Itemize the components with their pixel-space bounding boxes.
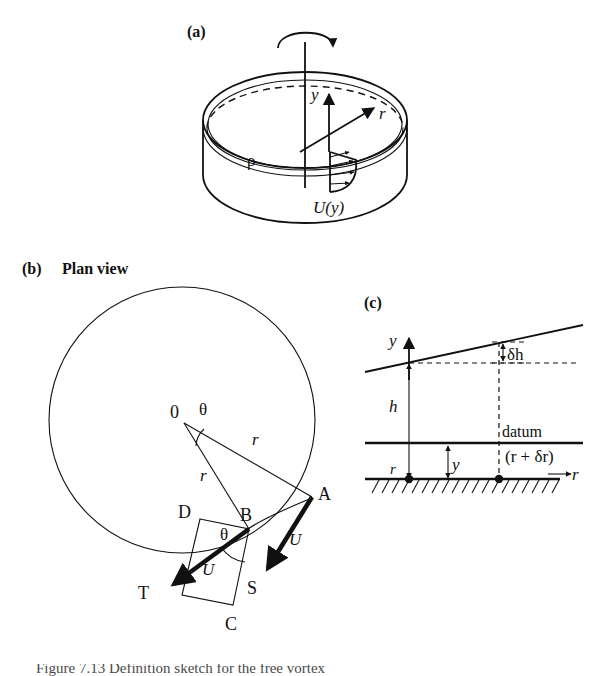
outer-station-dot — [495, 475, 503, 483]
panel-c-radius-outer-label: (r + δr) — [505, 447, 554, 466]
figure-root: (a) — [0, 0, 590, 676]
panel-c-r-axis-label: r — [572, 465, 579, 484]
panel-c-y-axis-label: y — [387, 331, 397, 350]
free-surface-line-icon — [365, 325, 583, 372]
panel-b-point-t-label: T — [138, 583, 149, 603]
figure-caption-strip: Figure 7.13 Definition sketch for the fr… — [0, 664, 590, 676]
panel-c-radius-inner-label: r — [390, 461, 396, 477]
vector-parallelogram-icon — [182, 519, 249, 605]
panel-b-theta-b-label: θ — [220, 525, 228, 544]
panel-b-title: Plan view — [62, 260, 129, 277]
panel-c-label: (c) — [364, 294, 382, 312]
panel-b-velocity-b-label: U — [202, 560, 216, 579]
panel-c-h-label: h — [389, 397, 398, 416]
panel-b-radius-lower-label: r — [200, 466, 207, 485]
panel-b-velocity-a-label: U — [289, 530, 303, 549]
panel-a-density-label: ρ — [247, 151, 255, 170]
panel-b-label: (b) — [22, 260, 42, 278]
panel-b-theta-origin-label: θ — [199, 400, 207, 419]
inner-station-dot — [405, 475, 413, 483]
figure-caption: Figure 7.13 Definition sketch for the fr… — [36, 664, 325, 676]
panel-c-datum-label: datum — [502, 423, 543, 440]
panel-b-point-c-label: C — [225, 614, 237, 634]
panel-b-point-b-label: B — [240, 505, 252, 525]
figure-canvas: (a) — [0, 0, 590, 676]
r-axis-arrow-icon — [300, 108, 374, 152]
panel-c-delta-h-label: δh — [507, 345, 524, 364]
bed-hatching-icon — [372, 480, 559, 493]
panel-a-r-label: r — [379, 104, 386, 123]
panel-c-y-label: y — [450, 455, 460, 474]
panel-b-point-s-label: S — [247, 578, 257, 598]
velocity-profile-icon — [330, 152, 356, 192]
panel-a-velocity-label: U(y) — [313, 198, 344, 217]
panel-b-origin-label: 0 — [170, 402, 179, 422]
angle-arc-origin-icon — [196, 429, 204, 446]
panel-b-point-d-label: D — [178, 502, 191, 522]
panel-b-radius-upper-label: r — [252, 430, 259, 449]
panel-a-label: (a) — [187, 23, 206, 41]
panel-b: (b) Plan view 0 θ r r — [22, 260, 331, 634]
panel-a: (a) — [187, 23, 407, 223]
panel-b-point-a-label: A — [318, 484, 331, 504]
panel-c: (c) y h datum y — [364, 294, 583, 493]
panel-a-y-label: y — [309, 85, 319, 104]
